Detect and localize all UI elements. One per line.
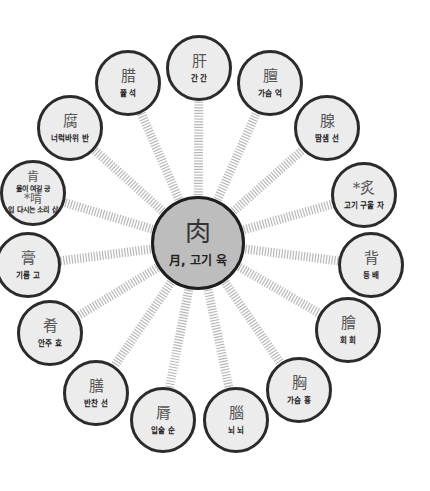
node-hoe: 膾 회 회: [315, 297, 381, 363]
radial-diagram: 肉 月, 고기 육 肝 간 간 膻 가슴 억 腺 땀샘 선 *炙 고기 구울 자…: [0, 0, 430, 491]
spoke-line: [76, 266, 159, 317]
node-reading: 가슴 억: [258, 90, 282, 98]
node-hanja: 背: [364, 250, 379, 267]
node-hanja: 肯: [27, 171, 39, 184]
center-node-meat: 肉 月, 고기 육: [151, 196, 245, 290]
spoke-line: [223, 280, 281, 364]
node-reading: 안주 효: [38, 340, 62, 348]
node-hanja: 肴: [43, 318, 58, 335]
node-reading: 쯀 석: [120, 90, 137, 98]
node-reading: 너럭바위 반: [51, 135, 89, 143]
node-gan: 肝 간 간: [166, 35, 232, 101]
node-reading: 반찬 선: [84, 400, 108, 408]
node-geung: 肯 옳이 여길 긍 *啃 입 다시는 소리 삽: [0, 160, 66, 226]
node-hyung: 胸 가슴 흉: [266, 357, 332, 423]
node-noe: 腦 뇌 뇌: [203, 387, 269, 453]
node-hanja: *炙: [353, 180, 376, 197]
spoke-line: [237, 266, 321, 315]
center-hanja: 肉: [185, 218, 211, 247]
node-hanja: 脣: [156, 405, 171, 422]
node-hanja: 膻: [263, 68, 278, 85]
node-reading: 등 배: [363, 272, 380, 280]
node-hanja: 腊: [121, 68, 136, 85]
node-sun: 脣 입술 순: [130, 387, 196, 453]
node-reading: 고기 구울 자: [344, 202, 384, 210]
spoke-line: [93, 149, 164, 213]
node-ja: *炙 고기 구울 자: [331, 162, 397, 228]
spoke-line: [216, 111, 257, 202]
spoke-line: [59, 249, 154, 261]
spoke-line: [232, 149, 304, 213]
node-reading-secondary: 입 다시는 소리 삽: [8, 207, 57, 215]
node-reading: 입술 순: [151, 427, 175, 435]
spoke-line: [63, 202, 155, 230]
node-eok: 膻 가슴 억: [237, 50, 303, 116]
node-hanja: 腦: [229, 405, 244, 422]
node-hanja: 膳: [89, 378, 104, 395]
spoke-line: [169, 287, 189, 389]
node-reading: 땀샘 선: [315, 135, 339, 143]
spoke-line: [207, 287, 229, 390]
spoke-line: [140, 111, 180, 201]
node-hanja: 腺: [320, 113, 335, 130]
node-hanja: 肝: [192, 53, 207, 70]
spoke-line: [243, 249, 341, 261]
spoke-line: [198, 99, 199, 198]
node-seok: 腊 쯀 석: [95, 50, 161, 116]
node-seon-gland: 腺 땀샘 선: [294, 95, 360, 161]
node-bae: 背 등 배: [338, 232, 404, 298]
node-reading: 회 회: [340, 337, 357, 345]
node-reading: 가슴 흉: [287, 397, 311, 405]
node-ban: 腐 너럭바위 반: [37, 95, 103, 161]
node-seon-side-dish: 膳 반찬 선: [63, 360, 129, 426]
node-hanja: 膏: [21, 250, 36, 267]
node-reading: 뇌 뇌: [228, 427, 245, 435]
node-hyo: 肴 안주 효: [17, 300, 83, 366]
node-hanja: 胸: [292, 375, 307, 392]
spoke-line: [241, 204, 334, 231]
node-reading: 간 간: [191, 75, 208, 83]
node-hanja: 腐: [63, 113, 78, 130]
node-hanja: 膾: [341, 315, 356, 332]
node-hanja-secondary: *啃: [24, 193, 42, 206]
node-reading: 기름 고: [16, 272, 40, 280]
center-reading: 月, 고기 육: [169, 255, 227, 268]
